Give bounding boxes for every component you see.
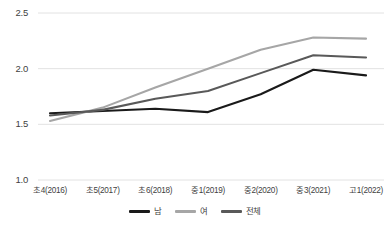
- legend-swatch-icon: [129, 210, 150, 213]
- legend-label: 남: [154, 207, 162, 215]
- chart-caption: [0, 228, 390, 237]
- legend-label: 여: [200, 207, 208, 215]
- y-tick-label: 2.0: [2, 64, 28, 74]
- legend-item-남[interactable]: 남: [129, 207, 162, 215]
- series-lines: [50, 37, 366, 121]
- y-tick-label: 1.5: [2, 119, 28, 129]
- chart-legend: 남여전체: [0, 207, 390, 215]
- series-line-여: [50, 37, 366, 121]
- chart-container: 1.01.52.02.5 초4(2016)초5(2017)초6(2018)중1(…: [0, 0, 390, 237]
- x-tick-label: 고1(2022): [335, 187, 390, 195]
- legend-swatch-icon: [175, 210, 196, 213]
- legend-swatch-icon: [221, 210, 242, 213]
- y-tick-label: 1.0: [2, 175, 28, 185]
- legend-label: 전체: [246, 207, 262, 215]
- line-chart-plot: [0, 0, 390, 237]
- y-tick-label: 2.5: [2, 8, 28, 18]
- legend-item-여[interactable]: 여: [175, 207, 208, 215]
- series-line-전체: [50, 55, 366, 115]
- legend-item-전체[interactable]: 전체: [221, 207, 262, 215]
